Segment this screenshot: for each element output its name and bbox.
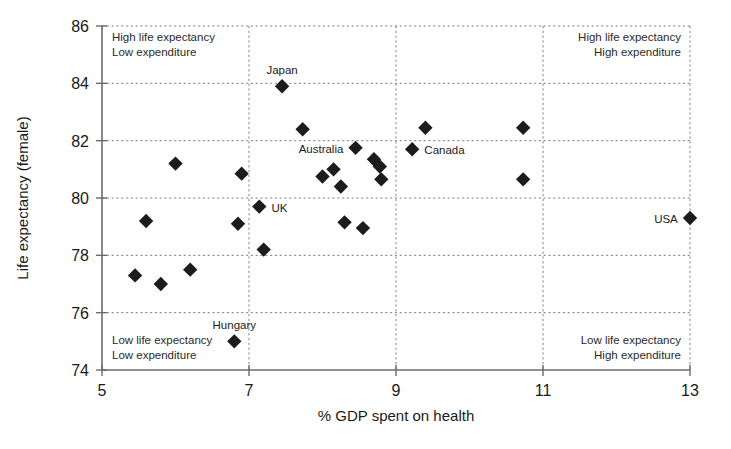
point-label-uk: UK <box>271 202 287 214</box>
tickmarks-group <box>96 26 690 376</box>
data-point-japan <box>275 79 289 93</box>
point-label-japan: Japan <box>266 64 297 76</box>
data-point-uk <box>252 199 266 213</box>
data-point <box>234 166 248 180</box>
annotation-top-right-line1: High life expectancy <box>578 31 681 43</box>
data-markers-group <box>128 79 697 349</box>
data-point-hungary <box>227 334 241 348</box>
annotation-bottom-left-line2: Low expenditure <box>112 349 196 361</box>
annotation-top-left-line1: High life expectancy <box>112 31 215 43</box>
annotation-bottom-right-line2: High expenditure <box>594 349 681 361</box>
data-point <box>374 172 388 186</box>
y-tick-label: 82 <box>71 133 89 150</box>
gridlines-group <box>102 26 690 370</box>
data-point <box>139 214 153 228</box>
data-point <box>334 179 348 193</box>
data-point <box>326 162 340 176</box>
x-tick-label: 7 <box>245 382 254 399</box>
scatter-plot-figure: 747678808284865791113 HungaryUKJapanAust… <box>0 0 731 449</box>
x-tick-label: 9 <box>392 382 401 399</box>
data-point <box>356 221 370 235</box>
x-axis-title: % GDP spent on health <box>318 407 475 424</box>
annotation-top-right-line2: High expenditure <box>594 46 681 58</box>
data-point <box>295 122 309 136</box>
data-point <box>516 121 530 135</box>
y-axis-title: Life expectancy (female) <box>14 116 31 279</box>
y-tick-label: 76 <box>71 305 89 322</box>
chart-canvas: 747678808284865791113 HungaryUKJapanAust… <box>0 0 731 449</box>
data-point <box>168 156 182 170</box>
point-label-canada: Canada <box>424 144 465 156</box>
data-point <box>315 169 329 183</box>
x-tick-label: 11 <box>535 382 552 399</box>
point-label-australia: Australia <box>299 143 344 155</box>
data-point <box>337 215 351 229</box>
y-tick-label: 86 <box>71 18 89 35</box>
point-label-usa: USA <box>654 213 678 225</box>
point-label-hungary: Hungary <box>213 319 257 331</box>
data-point-usa <box>683 211 697 225</box>
data-point <box>128 268 142 282</box>
data-point <box>516 172 530 186</box>
annotation-bottom-right-line1: Low life expectancy <box>581 334 682 346</box>
data-point-australia <box>348 141 362 155</box>
annotation-bottom-left-line1: Low life expectancy <box>112 334 213 346</box>
x-tick-label: 13 <box>681 382 699 399</box>
data-point <box>183 262 197 276</box>
data-point-canada <box>405 142 419 156</box>
annotation-top-left-line2: Low expenditure <box>112 46 196 58</box>
data-point <box>154 277 168 291</box>
data-point <box>418 121 432 135</box>
y-tick-label: 78 <box>71 247 89 264</box>
data-point <box>231 217 245 231</box>
data-point <box>257 242 271 256</box>
x-tick-label: 5 <box>98 382 107 399</box>
y-tick-label: 84 <box>71 75 89 92</box>
y-tick-label: 80 <box>71 190 89 207</box>
point-labels-group: HungaryUKJapanAustraliaCanadaUSA <box>213 64 679 331</box>
y-tick-label: 74 <box>71 362 89 379</box>
